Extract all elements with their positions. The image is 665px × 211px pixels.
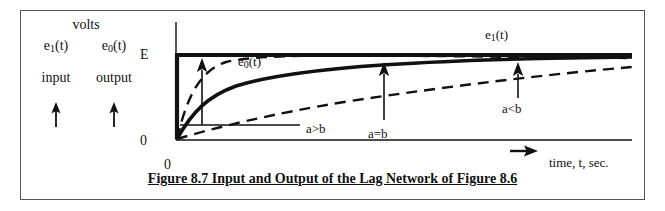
up-arrow-icon [46,100,66,128]
series-label-e1: e1(t) [485,28,508,45]
figure-caption-text: Figure 8.7 Input and Output of the Lag N… [148,171,517,186]
input-symbol-tail: (t) [55,38,68,53]
chart-plot-area: E 0 0 e1(t) e0(t) a>b a=b a<b time, t, s… [140,12,645,177]
input-symbol-label: e1(t) [27,38,85,56]
figure-caption: Figure 8.7 Input and Output of the Lag N… [20,170,645,188]
right-arrow-icon [510,145,538,156]
annotation-a-equal-b: a=b [368,127,388,141]
input-text-label: input [27,70,85,85]
figure-container: volts e1(t) e0(t) input output [0,0,665,211]
series-label-e1-tail: (t) [496,27,508,42]
chart-svg [140,12,645,177]
up-arrow-icon [197,58,207,72]
y-tick-label-zero: 0 [140,134,147,148]
output-symbol-label: e0(t) [85,38,143,56]
volts-unit-label: volts [41,18,131,32]
up-arrow-icon [104,100,124,128]
output-symbol-tail: (t) [113,38,126,53]
output-text-label: output [85,70,143,85]
y-tick-label-E: E [140,48,149,62]
annotation-a-greater-b: a>b [306,122,326,136]
series-label-e0-tail: (t) [249,54,261,69]
series-a-less-b [177,67,632,139]
annotation-a-less-b: a<b [502,102,522,116]
x-axis-label: time, t, sec. [549,156,609,170]
series-label-e0: e0(t) [238,55,261,72]
up-arrow-icon [513,62,523,76]
